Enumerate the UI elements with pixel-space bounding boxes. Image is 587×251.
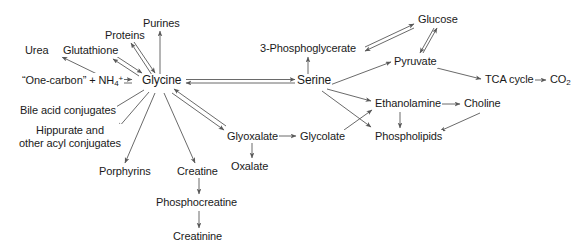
- edge-glycine-to-glyoxalate: [172, 93, 224, 130]
- edge-glycine-to-porphyrins: [125, 93, 155, 163]
- node-bile-acid-conjugates: Bile acid conjugates: [19, 104, 117, 117]
- node-phosphoglycerate: 3-Phosphoglycerate: [259, 42, 357, 55]
- edge-glycine-to-creatine: [164, 93, 195, 163]
- node-proteins: Proteins: [104, 29, 146, 42]
- node-one-carbon: “One-carbon” + NH4+: [21, 73, 124, 91]
- edge-serine-to-pyruvate: [330, 62, 391, 85]
- edge-choline-to-phospholipids: [440, 113, 480, 131]
- node-glyoxalate: Glyoxalate: [226, 130, 279, 143]
- node-creatine: Creatine: [176, 165, 219, 178]
- node-porphyrins: Porphyrins: [98, 165, 152, 178]
- edge-glycine-to-hippurate: [118, 92, 149, 128]
- node-urea: Urea: [24, 44, 49, 57]
- node-tca-cycle: TCA cycle: [484, 73, 535, 86]
- node-phospholipids: Phospholipids: [374, 130, 443, 143]
- node-co2: CO2: [549, 73, 572, 89]
- node-oxalate: Oxalate: [230, 160, 269, 173]
- edge-onecarbon-to-urea: [62, 57, 97, 74]
- edge-serine-to-phospholipids: [322, 91, 371, 127]
- edge-glyoxalate-to-glycine: [174, 89, 226, 126]
- hippurate-line-1: Hippurate and: [36, 124, 104, 136]
- edge-pyruvate-to-glucose: [423, 28, 437, 53]
- node-glutathione: Glutathione: [62, 44, 119, 57]
- co2-subscript: 2: [566, 78, 570, 87]
- one-carbon-text: “One-carbon” + NH: [22, 74, 114, 86]
- edge-glycine-to-proteins: [131, 43, 152, 75]
- node-pyruvate: Pyruvate: [393, 55, 438, 68]
- edge-pyruvate-to-tca: [437, 68, 481, 79]
- one-carbon-superscript: +: [119, 74, 124, 83]
- edge-glycolate-to-ethanolamine: [344, 110, 372, 130]
- edge-glucose-to-phosphoglycerate: [365, 28, 414, 51]
- node-ethanolamine: Ethanolamine: [374, 97, 442, 110]
- edge-glucose-to-pyruvate: [420, 28, 434, 53]
- node-glycolate: Glycolate: [299, 130, 346, 143]
- edge-phosphoglycerate-to-glucose: [365, 24, 414, 47]
- node-phosphocreatine: Phosphocreatine: [155, 196, 238, 209]
- node-hippurate-conjugates: Hippurate andother acyl conjugates: [14, 124, 126, 149]
- hippurate-line-2: other acyl conjugates: [19, 137, 121, 149]
- node-glycine: Glycine: [141, 74, 182, 87]
- node-glucose: Glucose: [417, 13, 459, 26]
- node-serine: Serine: [296, 74, 332, 87]
- node-creatinine: Creatinine: [172, 230, 223, 243]
- edge-glutathione-to-glycine: [116, 56, 142, 73]
- edge-proteins-to-glycine: [134, 42, 155, 73]
- node-choline: Choline: [463, 97, 502, 110]
- pathway-diagram: Urea Glutathione Proteins Purines “One-c…: [0, 0, 587, 251]
- co2-text: CO: [550, 73, 566, 85]
- node-purines: Purines: [142, 17, 181, 30]
